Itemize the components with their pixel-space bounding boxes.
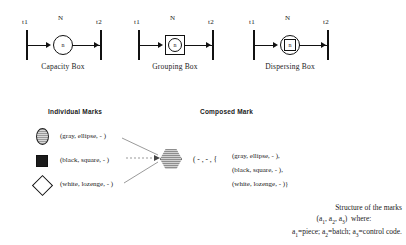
white-lozenge-icon [32,175,53,196]
terminal-label-right: t2 [208,18,214,26]
arrowhead-in-icon [273,42,278,48]
composed-inner-line-2: (black, square, - ), [232,166,283,174]
black-square-icon [36,155,48,167]
node-circle-icon: n [53,35,73,55]
composed-mark-glyph-wrapper [160,148,182,170]
terminal-label-left: t1 [22,18,28,26]
arc-label-n: N [58,14,63,22]
diagram-caption: Capacity Box [8,62,118,71]
legend-line-3: a1=piece; a2=batch; a3=control code. [292,227,402,239]
arrowhead-out-icon [94,42,99,48]
diagram-caption: Grouping Box [120,62,230,71]
node-label: n [289,42,292,48]
mark-tuple-text: (black, square, - ) [60,156,109,164]
diagram-dispersing-box: t1 N t2 n Dispersing Box [235,8,345,76]
composed-mark-heading: Composed Mark [200,108,253,115]
diagram-grouping-box: t1 N t2 n Grouping Box [120,8,230,76]
mark-tuple-text: (gray, ellipse, - ) [60,132,106,140]
mark-tuple-text: (white, lozenge, - ) [60,180,113,188]
arrowhead-in-icon [158,42,163,48]
terminal-label-right: t2 [96,18,102,26]
composed-inner-line-1: (gray, ellipse, - ), [232,152,280,160]
arc-label-n: N [285,14,290,22]
arrowhead-out-icon [206,42,211,48]
figure-canvas: t1 N t2 n Capacity Box t1 N t2 n Groupin… [0,0,406,245]
gray-ellipse-icon [36,128,49,145]
terminal-label-left: t1 [134,18,140,26]
node-circle-in-square-icon: n [165,35,185,55]
arrowhead-out-icon [321,42,326,48]
individual-marks-heading: Individual Marks [48,108,102,115]
terminal-label-right: t2 [323,18,329,26]
arrowhead-in-icon [46,42,51,48]
list-item: (black, square, - ) [34,152,144,170]
legend-line-1: Structure of the marks [292,203,402,214]
diagram-capacity-box: t1 N t2 n Capacity Box [8,8,118,76]
legend-line-2: (a1, a2, a3) where: [292,214,402,226]
marks-structure-legend: Structure of the marks (a1, a2, a3) wher… [292,203,402,239]
node-label: n [174,42,177,48]
list-item: (gray, ellipse, - ) [34,128,144,146]
composed-tuple-prefix: ( - , - , { [193,155,217,164]
list-item: (white, lozenge, - ) [34,176,154,194]
composed-inner-line-3: (white, lozenge, - )} [232,180,288,188]
gray-hexagon-icon [160,148,182,170]
diagram-caption: Dispersing Box [235,62,345,71]
terminal-label-left: t1 [249,18,255,26]
node-label: n [62,42,65,48]
node-square-in-circle-icon: n [280,35,300,55]
arc-label-n: N [170,14,175,22]
